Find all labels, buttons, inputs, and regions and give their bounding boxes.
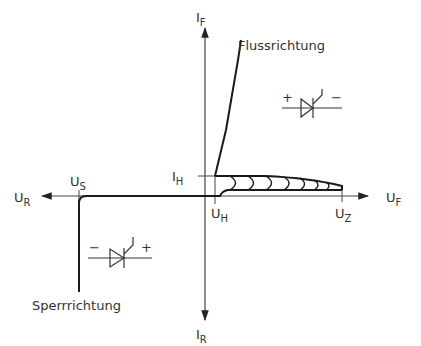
forward-blocking-lower — [205, 190, 342, 196]
forward-blocking-upper — [215, 176, 342, 190]
x-axis-positive-label: UF — [386, 190, 402, 208]
reverse-symbol-plus-sign: + — [141, 240, 152, 255]
reverse-symbol-minus-sign: − — [89, 240, 100, 255]
axes — [42, 28, 368, 320]
reverse-region-label: Sperrrichtung — [32, 298, 121, 313]
holding-voltage-label: UH — [211, 206, 228, 224]
x-axis-negative-label: UR — [14, 190, 31, 208]
holding-current-label: IH — [172, 169, 183, 187]
y-axis-positive-label: IF — [196, 10, 206, 28]
characteristic-diagram: IF IR UF UR IH UH UZ US Flussrichtung Sp… — [0, 0, 421, 346]
breakover-voltage-label: UZ — [335, 206, 352, 224]
forward-curve — [205, 40, 342, 196]
breakdown-voltage-label: US — [70, 174, 86, 192]
forward-symbol-plus-sign: + — [282, 90, 293, 105]
y-axis-negative-label: IR — [196, 327, 207, 345]
switching-arcs — [230, 176, 329, 190]
forward-conduction-branch — [215, 40, 241, 176]
forward-region-label: Flussrichtung — [238, 38, 325, 53]
forward-symbol-minus-sign: − — [331, 90, 342, 105]
